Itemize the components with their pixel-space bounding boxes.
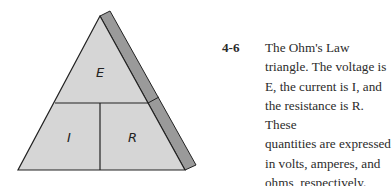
caption-line: the resistance is R. These [265,96,392,135]
caption-line: The Ohm's Law [265,38,392,57]
triangle-front-face [18,16,185,170]
ohms-law-triangle-figure: E I R [0,0,220,186]
caption-line: E, the current is I, and [265,77,392,96]
caption-line: quantities are expressed [265,134,392,153]
caption-line: ohms, respectively. [265,173,392,186]
label-current-i: I [67,130,71,145]
label-voltage-e: E [96,65,105,80]
caption-body: The Ohm's Law triangle. The voltage is E… [265,38,392,186]
figure-number: 4-6 [222,38,240,57]
figure-caption: 4-6 The Ohm's Law triangle. The voltage … [222,38,392,186]
label-resistance-r: R [128,130,137,145]
triangle-diagram: E I R [0,0,220,186]
caption-line: triangle. The voltage is [265,57,392,76]
caption-line: in volts, amperes, and [265,154,392,173]
